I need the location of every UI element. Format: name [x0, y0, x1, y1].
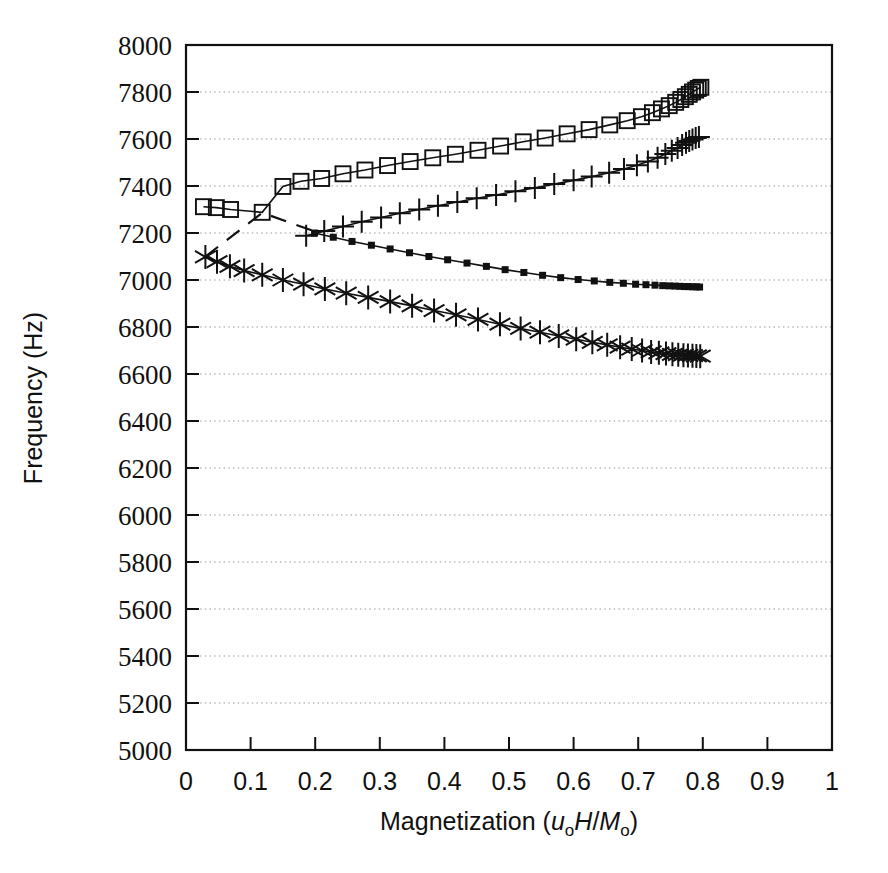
x-tick-label-0.6: 0.6 [556, 767, 591, 795]
y-tick-label-6000: 6000 [118, 501, 172, 531]
marker-filled-square [425, 253, 432, 260]
y-axis-title: Frequency (Hz) [19, 312, 47, 484]
x-tick-label-0.8: 0.8 [685, 767, 720, 795]
y-tick-label-7400: 7400 [118, 172, 172, 202]
marker-filled-square [368, 242, 375, 249]
marker-filled-square [520, 269, 527, 276]
marker-filled-square [330, 234, 337, 241]
y-tick-label-6600: 6600 [118, 360, 172, 390]
y-tick-label-7800: 7800 [118, 78, 172, 108]
x-tick-label-0.5: 0.5 [492, 767, 527, 795]
x-tick-label-0.9: 0.9 [750, 767, 785, 795]
marker-filled-square [651, 282, 658, 289]
marker-filled-square [502, 266, 509, 273]
marker-filled-square [406, 249, 413, 256]
y-tick-label-7600: 7600 [118, 125, 172, 155]
y-tick-label-7000: 7000 [118, 266, 172, 296]
marker-filled-square [349, 238, 356, 245]
y-tick-label-5400: 5400 [118, 642, 172, 672]
marker-filled-square [387, 245, 394, 252]
marker-filled-square [659, 282, 666, 289]
x-tick-label-1: 1 [825, 767, 839, 795]
y-tick-label-6200: 6200 [118, 454, 172, 484]
y-tick-label-5000: 5000 [118, 736, 172, 766]
marker-filled-square [539, 272, 546, 279]
figure-root: 00.10.20.30.40.50.60.70.80.91 5000520054… [0, 0, 888, 873]
marker-filled-square [464, 260, 471, 267]
y-tick-label-6400: 6400 [118, 407, 172, 437]
marker-filled-square [642, 281, 649, 288]
x-tick-label-0.1: 0.1 [233, 767, 268, 795]
marker-filled-square [557, 274, 564, 281]
x-tick-label-0.3: 0.3 [362, 767, 397, 795]
marker-filled-square [606, 279, 613, 286]
marker-filled-square [591, 277, 598, 284]
y-tick-label-5600: 5600 [118, 595, 172, 625]
marker-filled-square [620, 280, 627, 287]
y-tick-label-5800: 5800 [118, 548, 172, 578]
x-tick-label-0.4: 0.4 [427, 767, 462, 795]
frequency-vs-magnetization-chart: 00.10.20.30.40.50.60.70.80.91 5000520054… [0, 0, 888, 873]
x-tick-label-0: 0 [179, 767, 193, 795]
y-tick-label-7200: 7200 [118, 219, 172, 249]
y-tick-label-8000: 8000 [118, 31, 172, 61]
marker-filled-square [444, 256, 451, 263]
y-tick-label-5200: 5200 [118, 689, 172, 719]
marker-filled-square [632, 281, 639, 288]
marker-filled-square [311, 230, 318, 237]
marker-filled-square [483, 263, 490, 270]
x-tick-label-0.7: 0.7 [621, 767, 656, 795]
marker-filled-square [696, 284, 703, 291]
marker-filled-square [575, 276, 582, 283]
y-tick-label-6800: 6800 [118, 313, 172, 343]
x-tick-label-0.2: 0.2 [298, 767, 333, 795]
